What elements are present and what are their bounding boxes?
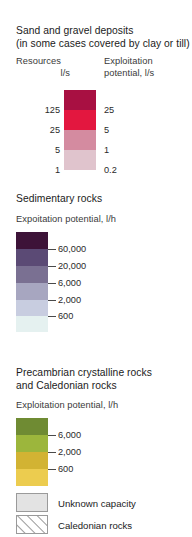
sand-gravel-right-value-1: 25 bbox=[104, 105, 114, 115]
key-label-unknown-capacity: Unknown capacity bbox=[58, 498, 136, 509]
precambrian-value-3: 600 bbox=[58, 464, 73, 474]
section-title-precambrian: Precambrian crystalline rocks and Caledo… bbox=[16, 366, 192, 392]
sand-gravel-right-value-3: 1 bbox=[104, 145, 109, 155]
sedimentary-value-2: 20,000 bbox=[58, 261, 86, 271]
sand-gravel-col-right-unit: potential, l/s bbox=[104, 68, 154, 80]
sedimentary-value-1: 60,000 bbox=[58, 244, 86, 254]
sedimentary-subhead: Expoitation potential, l/h bbox=[16, 214, 116, 226]
sand-gravel-band-2 bbox=[64, 110, 96, 130]
sand-gravel-title-line1: Sand and gravel deposits bbox=[16, 25, 133, 36]
precambrian-band-3 bbox=[16, 452, 48, 469]
exploitation-label: Exploitation bbox=[104, 56, 153, 66]
sedimentary-title: Sedimentary rocks bbox=[16, 193, 102, 204]
precambrian-subhead: Exploitation potential, l/h bbox=[16, 400, 118, 412]
sedimentary-band-6 bbox=[16, 316, 48, 332]
precambrian-value-2: 2,000 bbox=[58, 447, 81, 457]
precambrian-subhead-text: Exploitation potential, l/h bbox=[16, 400, 118, 410]
sand-gravel-right-value-4: 0.2 bbox=[104, 165, 117, 175]
sand-gravel-left-value-4: 1 bbox=[16, 165, 60, 175]
sand-gravel-band-3 bbox=[64, 130, 96, 150]
sedimentary-color-ramp bbox=[16, 232, 48, 332]
precambrian-color-ramp bbox=[16, 418, 48, 486]
precambrian-band-1 bbox=[16, 418, 48, 435]
resources-unit: l/s bbox=[61, 68, 70, 78]
diagonal-hatch-icon bbox=[17, 516, 47, 533]
key-swatch-caledonian-rocks bbox=[16, 515, 48, 534]
sedimentary-tick-1 bbox=[48, 249, 56, 250]
section-title-sand-gravel: Sand and gravel deposits (in some cases … bbox=[16, 24, 192, 50]
sedimentary-value-5: 600 bbox=[58, 311, 73, 321]
key-swatch-unknown-capacity bbox=[16, 493, 48, 512]
precambrian-value-1: 6,000 bbox=[58, 430, 81, 440]
sand-gravel-band-1 bbox=[64, 90, 96, 110]
precambrian-band-4 bbox=[16, 469, 48, 486]
sand-gravel-col-left-header: Resources bbox=[16, 56, 86, 68]
sand-gravel-band-4 bbox=[64, 150, 96, 170]
sedimentary-tick-5 bbox=[48, 316, 56, 317]
exploitation-unit: potential, l/s bbox=[104, 68, 154, 78]
map-legend: Sand and gravel deposits (in some cases … bbox=[0, 0, 192, 537]
sand-gravel-left-value-3: 5 bbox=[16, 145, 60, 155]
sedimentary-band-2 bbox=[16, 249, 48, 266]
sedimentary-subhead-text: Expoitation potential, l/h bbox=[16, 214, 116, 224]
sedimentary-band-5 bbox=[16, 300, 48, 316]
sand-gravel-col-left-unit: l/s bbox=[16, 68, 70, 80]
precambrian-tick-3 bbox=[48, 469, 56, 470]
resources-label: Resources bbox=[16, 56, 61, 66]
sand-gravel-title-line2: (in some cases covered by clay or till) bbox=[16, 37, 192, 50]
sand-gravel-right-value-2: 5 bbox=[104, 125, 109, 135]
sedimentary-tick-2 bbox=[48, 266, 56, 267]
sedimentary-tick-3 bbox=[48, 283, 56, 284]
sedimentary-band-1 bbox=[16, 232, 48, 249]
sand-gravel-col-right-header: Exploitation bbox=[104, 56, 153, 68]
sedimentary-value-3: 6,000 bbox=[58, 278, 81, 288]
sand-gravel-left-value-1: 125 bbox=[16, 105, 60, 115]
precambrian-tick-2 bbox=[48, 452, 56, 453]
key-label-caledonian-rocks: Caledonian rocks bbox=[58, 520, 132, 531]
sedimentary-value-4: 2,000 bbox=[58, 295, 81, 305]
precambrian-title-line1: Precambrian crystalline rocks bbox=[16, 367, 152, 378]
section-title-sedimentary: Sedimentary rocks bbox=[16, 192, 192, 205]
sand-gravel-color-ramp bbox=[64, 90, 96, 170]
sedimentary-tick-4 bbox=[48, 300, 56, 301]
sand-gravel-left-value-2: 25 bbox=[16, 125, 60, 135]
precambrian-title-line2: and Caledonian rocks bbox=[16, 379, 192, 392]
sedimentary-band-4 bbox=[16, 283, 48, 300]
sedimentary-band-3 bbox=[16, 266, 48, 283]
precambrian-band-2 bbox=[16, 435, 48, 452]
precambrian-tick-1 bbox=[48, 435, 56, 436]
